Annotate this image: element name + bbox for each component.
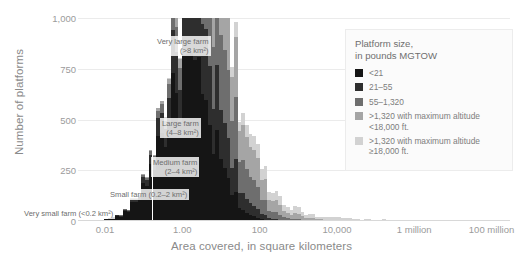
y-axis-tick-label: 500 (30, 114, 76, 125)
legend-item[interactable]: 21–55 (355, 82, 503, 92)
annotation-line: Small farm (0.2–2 km²) (110, 190, 187, 199)
cropped-header-text (0, 0, 523, 10)
legend-title-line2: in pounds MGTOW (355, 50, 503, 62)
legend-title-line1: Platform size, (355, 38, 503, 50)
annotation-line: Large farm (162, 119, 199, 128)
legend-item[interactable]: >1,320 with maximum altitude <18,000 ft. (355, 111, 503, 132)
gridline (78, 18, 510, 19)
histogram-bar (175, 18, 179, 27)
legend-item-label: >1,320 with maximum altitude ≥18,000 ft. (369, 136, 503, 157)
legend-item[interactable]: <21 (355, 68, 503, 78)
legend-title: Platform size, in pounds MGTOW (355, 38, 503, 62)
y-axis-tick-label: 750 (30, 63, 76, 74)
histogram-bar (256, 144, 260, 158)
x-axis-tick-label: 100 million (469, 224, 514, 235)
annotation-line: (4–8 km²) (162, 128, 199, 137)
annotation-large-farm: Large farm(4–8 km²) (160, 118, 201, 138)
y-axis-ticks: 02505007501,000 (0, 0, 76, 260)
legend-swatch-icon (355, 98, 363, 106)
annotation-line: Medium farm (153, 158, 197, 167)
legend-swatch-icon (355, 83, 363, 91)
annotation-small-farm: Small farm (0.2–2 km²) (108, 189, 189, 200)
annotation-very-large-farm: Very large farm(>8 km²) (155, 36, 211, 56)
legend-item-label: 21–55 (369, 82, 392, 92)
annotation-medium-farm: Medium farm(2–4 km²) (151, 157, 199, 177)
annotation-line: (2–4 km²) (153, 167, 197, 176)
x-axis-tick-label: 1.00 (173, 224, 192, 235)
x-axis-tick-label: 0.01 (96, 224, 115, 235)
legend-item-label: >1,320 with maximum altitude <18,000 ft. (369, 111, 503, 132)
histogram-bar (264, 166, 268, 178)
histogram-bar (160, 104, 164, 113)
histogram-bar (141, 174, 145, 175)
legend-entries: <2121–5555–1,320>1,320 with maximum alti… (355, 68, 503, 157)
x-axis-tick-label: 100 (252, 224, 268, 235)
legend-swatch-icon (355, 137, 363, 145)
histogram-bar (241, 113, 245, 125)
annotation-line: Very small farm (<0.2 km²) (24, 209, 113, 218)
x-axis-tick-label: 10,000 (322, 224, 351, 235)
chart-root: Number of platforms 02505007501,000 0.01… (0, 0, 523, 260)
y-axis-tick-label: 250 (30, 165, 76, 176)
y-axis-tick-label: 1,000 (30, 13, 76, 24)
x-axis-tick-label: 1 million (397, 224, 432, 235)
x-axis-line (78, 220, 510, 221)
x-axis-label: Area covered, in square kilometers (0, 240, 523, 252)
legend-item-label: 55–1,320 (369, 97, 404, 107)
histogram-bar (234, 22, 238, 38)
annotation-line: Very large farm (157, 37, 209, 46)
histogram-bar (227, 18, 231, 70)
annotation-line: (>8 km²) (157, 46, 209, 55)
legend-item-label: <21 (369, 68, 383, 78)
legend-swatch-icon (355, 112, 363, 120)
annotation-very-small-farm: Very small farm (<0.2 km²) (22, 208, 115, 219)
histogram-bar (160, 101, 164, 104)
histogram-bar (278, 196, 282, 204)
histogram-bar (149, 150, 153, 151)
legend-item[interactable]: 55–1,320 (355, 97, 503, 107)
histogram-bar (234, 37, 238, 97)
legend-item[interactable]: >1,320 with maximum altitude ≥18,000 ft. (355, 136, 503, 157)
legend: Platform size, in pounds MGTOW <2121–555… (345, 29, 513, 171)
legend-swatch-icon (355, 69, 363, 77)
